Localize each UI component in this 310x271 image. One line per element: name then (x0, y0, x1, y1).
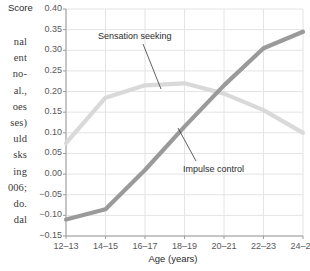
y-axis-tick-label: 0.25 (32, 65, 62, 75)
y-axis-tick-label: −0.10 (32, 209, 62, 219)
y-axis-tick-label: 0.00 (32, 168, 62, 178)
y-axis-tick-label: 0.30 (32, 44, 62, 54)
y-axis-tick-label: 0.10 (32, 127, 62, 137)
x-axis-tick-label: 22–23 (251, 241, 276, 251)
x-axis-title: Age (years) (0, 253, 310, 264)
x-axis-tick-label: 18–19 (172, 241, 197, 251)
x-axis-tick-label: 20–21 (211, 241, 236, 251)
x-axis-tick-label: 24–25 (290, 241, 310, 251)
y-axis-tick-label: 0.40 (32, 3, 62, 13)
y-axis-tick-label: −0.05 (32, 189, 62, 199)
y-axis-tick-label: 0.15 (32, 106, 62, 116)
y-axis-tick-labels: 0.400.350.300.250.200.150.100.050.00−0.0… (30, 0, 62, 271)
figure-page: nalentno-al.,oesses)uldsksing006;do.dal … (0, 0, 310, 271)
y-axis-tick-label: 0.05 (32, 147, 62, 157)
annotation-impulse-control: Impulse control (183, 164, 244, 174)
x-axis-tick-label: 14–15 (93, 241, 118, 251)
gridlines (66, 9, 303, 236)
y-axis-tick-label: 0.20 (32, 86, 62, 96)
line-chart: Score 0.400.350.300.250.200.150.100.050.… (0, 0, 310, 271)
y-axis-tick-label: 0.35 (32, 24, 62, 34)
plot-frame (63, 9, 303, 239)
x-axis-tick-label: 16–17 (132, 241, 157, 251)
annotation-sensation-seeking: Sensation seeking (98, 31, 172, 41)
x-axis-tick-label: 12–13 (53, 241, 78, 251)
